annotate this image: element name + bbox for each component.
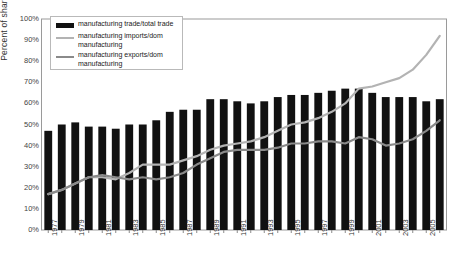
- light-line-swatch-icon: [56, 33, 74, 42]
- line-series: [48, 120, 440, 194]
- bar: [58, 125, 66, 231]
- bar: [368, 93, 376, 230]
- bar: [44, 131, 52, 230]
- bar: [436, 99, 444, 230]
- bar: [125, 125, 133, 231]
- x-axis-tick: 1991: [240, 219, 248, 236]
- bar: [314, 93, 322, 230]
- dark-line-swatch-icon: [56, 52, 74, 61]
- bar: [382, 97, 390, 230]
- x-axis-tick: 1995: [294, 219, 302, 236]
- chart-legend: manufacturing trade/total trade manufact…: [50, 16, 183, 70]
- x-axis-tick: 2001: [375, 219, 383, 236]
- bar-swatch-icon: [56, 21, 74, 30]
- bar: [179, 110, 187, 230]
- legend-item-manufacturing-trade-total-trade: manufacturing trade/total trade: [55, 20, 178, 30]
- bar: [287, 95, 295, 230]
- x-axis-tick: 1977: [51, 219, 59, 236]
- x-axis-tick: 1987: [186, 219, 194, 236]
- legend-item-manufacturing-imports-dom-manufacturing: manufacturing imports/dom manufacturing: [55, 32, 178, 49]
- x-axis-tick: 1979: [78, 219, 86, 236]
- bar: [152, 120, 160, 230]
- bar: [409, 97, 417, 230]
- bar: [301, 95, 309, 230]
- x-axis-tick: 1997: [321, 219, 329, 236]
- bar: [193, 110, 201, 230]
- bar: [260, 101, 268, 230]
- x-axis-tick: 2005: [429, 219, 437, 236]
- bar: [341, 89, 349, 230]
- x-axis-tick: 1993: [267, 219, 275, 236]
- legend-label: manufacturing imports/dom manufacturing: [78, 32, 178, 49]
- x-axis-tick: 1983: [132, 219, 140, 236]
- bar: [233, 101, 241, 230]
- legend-item-manufacturing-exports-dom-manufacturing: manufacturing exports/dom manufacturing: [55, 51, 178, 68]
- bar: [274, 97, 282, 230]
- bar: [206, 99, 214, 230]
- bar: [247, 103, 255, 230]
- bar: [166, 112, 174, 230]
- chart-container: Percent of share 100%90%80%70%60%50%40%3…: [0, 0, 453, 267]
- bar: [71, 122, 79, 230]
- bar: [355, 89, 363, 230]
- x-axis-tick: 1999: [348, 219, 356, 236]
- bar: [422, 101, 430, 230]
- legend-label: manufacturing trade/total trade: [78, 20, 173, 29]
- x-axis-tick: 2003: [402, 219, 410, 236]
- bar: [395, 97, 403, 230]
- x-axis-tick: 1985: [159, 219, 167, 236]
- x-axis-tick: 1989: [213, 219, 221, 236]
- legend-label: manufacturing exports/dom manufacturing: [78, 51, 178, 68]
- x-axis-tick: 1981: [105, 219, 113, 236]
- bar: [220, 99, 228, 230]
